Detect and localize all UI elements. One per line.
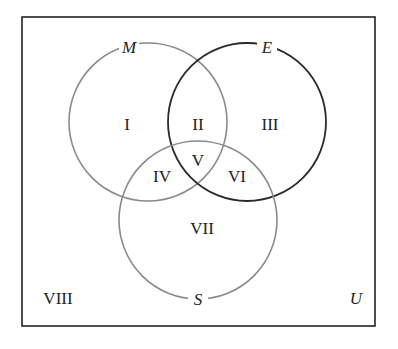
region-3: III [262,115,279,134]
region-8: VIII [43,289,73,308]
region-5: V [192,151,205,170]
region-2: II [192,115,204,134]
region-7: VII [190,219,214,238]
set-m-label: M [121,38,137,57]
set-s-label: S [194,290,203,309]
region-6: VI [228,167,246,186]
venn-diagram: M E S U I II III IV V VI VII VIII [0,0,398,349]
region-1: I [124,115,130,134]
set-e-label: E [261,38,273,57]
universe-label: U [350,289,364,308]
region-4: IV [153,167,172,186]
universe-box [22,17,375,326]
